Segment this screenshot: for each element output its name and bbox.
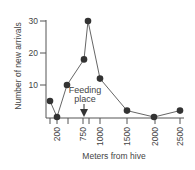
data-point [47,98,54,105]
data-point [81,56,88,63]
arrow-down-icon [80,109,88,117]
x-tick-label: 1500 [122,127,132,146]
data-point [151,114,158,121]
x-axis: 2007501000150020002500 [46,118,185,146]
x-tick-label: 750 [78,127,88,141]
y-tick-label: 20 [29,48,39,58]
data-point [177,107,184,114]
x-axis-title: Meters from hive [82,151,146,161]
data-point [85,18,92,25]
x-tick-label: 2500 [175,127,185,146]
data-point [124,107,131,114]
series-line [50,21,180,117]
data-point [54,114,61,121]
x-tick-label: 1000 [95,127,105,146]
y-tick-label: 10 [29,80,39,90]
chart: 102030 2007501000150020002500 Number of … [0,0,195,170]
data-point [64,82,71,89]
annotation-line-2: place [74,94,96,104]
data-series [47,18,184,121]
x-tick-label: 200 [52,127,62,141]
feeding-place-annotation: Feeding place [69,85,102,117]
y-axis: 102030 [29,16,46,118]
x-tick-label: 2000 [150,127,160,146]
data-point [97,75,104,82]
y-axis-title: Number of new arrivals [13,22,23,109]
y-tick-label: 30 [29,16,39,26]
